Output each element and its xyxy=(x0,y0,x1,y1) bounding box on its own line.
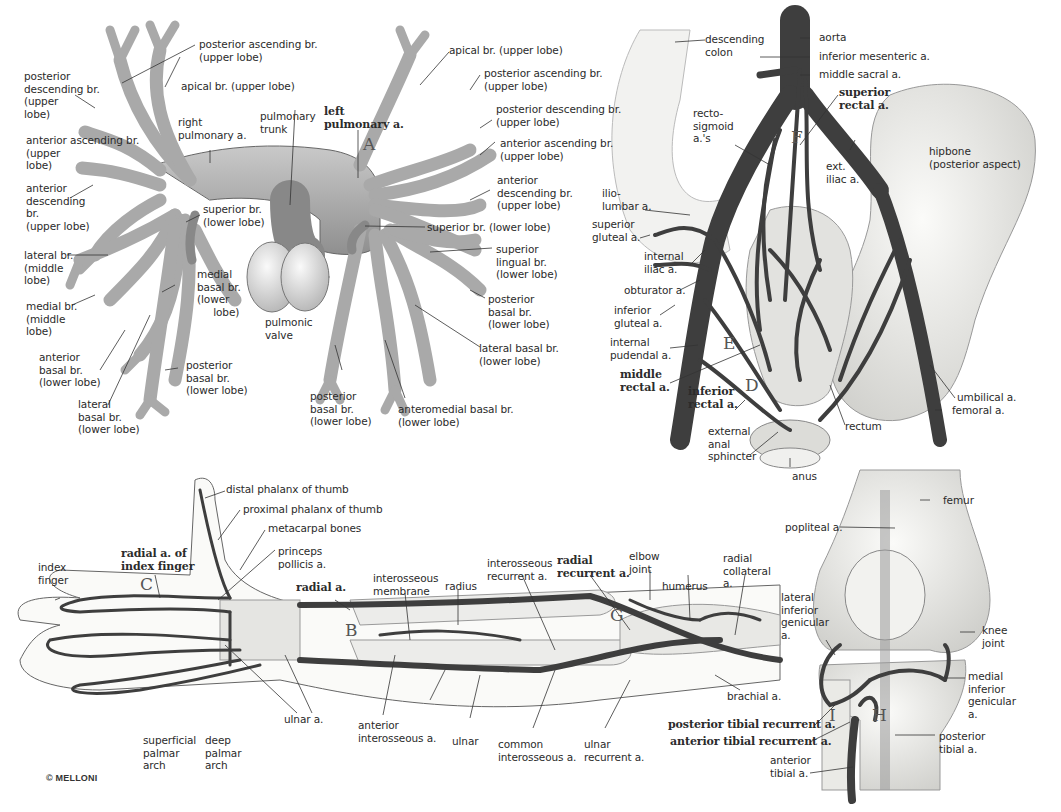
label-middle-sacral-a: middle sacral a. xyxy=(819,68,901,81)
label-apical-br-right: apical br. (upper lobe) xyxy=(181,80,295,93)
label-superior-gluteal-a: superior gluteal a. xyxy=(592,218,640,243)
label-princeps-pollicis-a: princeps pollicis a. xyxy=(278,545,326,570)
label-anterior-descending-br-left: anterior descending br. (upper lobe) xyxy=(497,174,573,212)
label-interosseous-recurrent-a: interosseous recurrent a. xyxy=(487,557,552,582)
label-radial-a: radial a. xyxy=(296,582,346,595)
marker-letter-e: E xyxy=(723,333,735,353)
label-anterior-ascending-br-right: anterior ascending br. (upper lobe) xyxy=(26,134,139,172)
label-medial-basal-br-right: medial basal br. (lower lobe) xyxy=(197,268,241,318)
anatomy-plate: posterior ascending br. (upper lobe) api… xyxy=(0,0,1061,812)
marker-letter-b: B xyxy=(345,620,358,640)
label-index-finger: index finger xyxy=(38,561,68,586)
label-medial-inferior-genicular-a: medial inferior genicular a. xyxy=(968,670,1016,720)
label-anterior-tibial-recurrent-a: anterior tibial recurrent a. xyxy=(670,736,832,749)
label-radius: radius xyxy=(445,580,477,593)
label-lateral-basal-br-right: lateral basal br. (lower lobe) xyxy=(78,398,140,436)
label-posterior-descending-br-left: posterior descending br. (upper lobe) xyxy=(496,103,621,128)
label-superior-rectal-a: superior rectal a. xyxy=(839,87,890,112)
label-femoral-a: femoral a. xyxy=(952,404,1005,417)
label-ulnar-recurrent-a: ulnar recurrent a. xyxy=(584,738,644,763)
label-external-anal-sphincter: external anal sphincter xyxy=(708,425,756,463)
label-anterior-descending-br-right: anterior descending br. (upper lobe) xyxy=(26,182,90,232)
label-pulmonic-valve: pulmonic valve xyxy=(265,316,312,341)
label-elbow-joint: elbow joint xyxy=(629,550,660,575)
label-inferior-mesenteric-a: inferior mesenteric a. xyxy=(819,50,930,63)
label-popliteal-a: popliteal a. xyxy=(785,521,842,534)
label-superficial-palmar-arch: superficial palmar arch xyxy=(143,734,196,772)
label-apical-br-left: apical br. (upper lobe) xyxy=(449,44,563,57)
label-rectum: rectum xyxy=(845,420,882,433)
label-ext-iliac-a: ext. iliac a. xyxy=(826,160,859,185)
label-descending-colon: descending colon xyxy=(705,33,764,58)
label-lateral-basal-br-left: lateral basal br. (lower lobe) xyxy=(479,342,559,367)
label-distal-phalanx-thumb: distal phalanx of thumb xyxy=(226,483,349,496)
label-left-pulmonary-a: left pulmonary a. xyxy=(324,106,404,131)
label-humerus: humerus xyxy=(662,580,708,593)
label-right-pulmonary-a: right pulmonary a. xyxy=(178,116,246,141)
copyright-notice: © MELLONI xyxy=(46,773,97,783)
label-internal-pudendal-a: internal pudendal a. xyxy=(610,336,671,361)
label-superior-br-lower-lobe-right: superior br. (lower lobe) xyxy=(203,203,265,228)
label-posterior-ascending-br-left: posterior ascending br. (upper lobe) xyxy=(484,67,603,92)
label-obturator-a: obturator a. xyxy=(624,284,685,297)
label-anus: anus xyxy=(792,470,817,483)
label-anterior-basal-br-right: anterior basal br. (lower lobe) xyxy=(39,351,101,389)
marker-letter-f: F xyxy=(791,127,803,147)
label-inferior-rectal-a: inferior rectal a. xyxy=(688,386,738,411)
label-radial-recurrent-a: radial recurrent a. xyxy=(557,555,630,580)
label-anterior-interosseous-a: anterior interosseous a. xyxy=(358,719,436,744)
label-posterior-basal-br-left-upper: posterior basal br. (lower lobe) xyxy=(488,293,550,331)
label-medial-br-middle-lobe: medial br. (middle lobe) xyxy=(26,300,77,338)
marker-letter-d: D xyxy=(745,375,759,395)
label-posterior-tibial-a: posterior tibial a. xyxy=(939,730,985,755)
label-metacarpal-bones: metacarpal bones xyxy=(268,522,361,535)
label-pulmonary-trunk: pulmonary trunk xyxy=(260,110,316,135)
label-inferior-gluteal-a: inferior gluteal a. xyxy=(614,304,662,329)
label-middle-rectal-a: middle rectal a. xyxy=(620,369,670,394)
label-radial-collateral-a: radial collateral a. xyxy=(723,552,771,590)
label-anterior-ascending-br-left: anterior ascending br. (upper lobe) xyxy=(500,137,613,162)
label-superior-br-lower-lobe-left: superior br. (lower lobe) xyxy=(427,221,550,234)
label-ulnar-a: ulnar a. xyxy=(284,713,323,726)
label-anteromedial-basal-br: anteromedial basal br. (lower lobe) xyxy=(398,403,514,428)
marker-letter-h: H xyxy=(872,705,887,725)
label-proximal-phalanx-thumb: proximal phalanx of thumb xyxy=(243,503,383,516)
label-posterior-basal-br-right: posterior basal br. (lower lobe) xyxy=(186,359,248,397)
marker-letter-g: G xyxy=(610,605,624,625)
label-anterior-tibial-a: anterior tibial a. xyxy=(770,754,811,779)
label-hipbone: hipbone (posterior aspect) xyxy=(929,145,1021,170)
label-femur: femur xyxy=(943,494,974,507)
label-posterior-descending-br-right: posterior descending br. (upper lobe) xyxy=(24,70,100,120)
label-common-interosseous-a: common interosseous a. xyxy=(498,738,576,763)
label-knee-joint: knee joint xyxy=(982,624,1007,649)
label-brachial-a: brachial a. xyxy=(727,690,781,703)
label-umbilical-a: umbilical a. xyxy=(957,391,1016,404)
label-posterior-basal-br-left: posterior basal br. (lower lobe) xyxy=(310,390,372,428)
label-superior-lingual-br: superior lingual br. (lower lobe) xyxy=(496,243,558,281)
label-lateral-inferior-genicular-a: lateral inferior genicular a. xyxy=(781,591,829,641)
label-iliolumbar-a: ilio- lumbar a. xyxy=(602,187,651,212)
label-interosseous-membrane: interosseous membrane xyxy=(373,572,438,597)
marker-letter-a: A xyxy=(363,134,375,154)
label-internal-iliac-a: internal iliac a. xyxy=(644,250,684,275)
label-ulnar: ulnar xyxy=(452,735,478,748)
marker-letter-c: C xyxy=(140,574,153,594)
label-posterior-ascending-br-right: posterior ascending br. (upper lobe) xyxy=(199,38,318,63)
label-lateral-br-middle-lobe: lateral br. (middle lobe) xyxy=(24,249,73,287)
label-deep-palmar-arch: deep palmar arch xyxy=(205,734,241,772)
label-posterior-tibial-recurrent-a: posterior tibial recurrent a. xyxy=(668,719,836,732)
label-recto-sigmoid-as: recto- sigmoid a.'s xyxy=(693,107,734,145)
label-radial-a-index-finger: radial a. of index finger xyxy=(121,548,194,573)
label-aorta: aorta xyxy=(819,31,846,44)
